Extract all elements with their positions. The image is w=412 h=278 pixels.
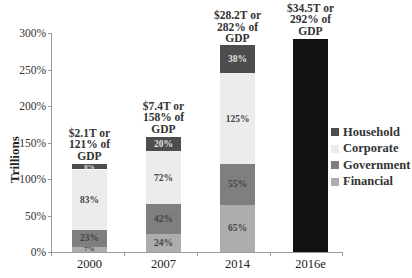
x-tick-mark — [51, 252, 52, 256]
total-label-line: GDP — [276, 26, 346, 38]
total-label-line: 158% of — [129, 112, 199, 124]
legend-swatch — [331, 178, 339, 186]
total-label-line: GDP — [203, 33, 273, 45]
bar-segment-corporate: 125% — [220, 73, 255, 164]
total-label-line: GDP — [55, 151, 125, 163]
y-tick-mark — [48, 179, 52, 180]
legend-label: Household — [343, 125, 400, 140]
x-tick-label: 2014 — [203, 257, 273, 272]
total-label-2007: $7.4T or158% ofGDP — [129, 101, 199, 136]
legend: HouseholdCorporateGovernmentFinancial — [331, 124, 410, 190]
y-tick-label: 200% — [0, 100, 46, 112]
y-tick-mark — [48, 216, 52, 217]
x-tick-mark — [270, 252, 271, 256]
x-tick-mark — [124, 252, 125, 256]
bar-2016e — [293, 39, 328, 252]
legend-item-corporate: Corporate — [331, 141, 410, 158]
total-label-line: GDP — [129, 124, 199, 136]
total-label-line: 121% of — [55, 139, 125, 151]
bar-segment-household: 8% — [72, 164, 107, 170]
x-tick-label: 2016e — [276, 257, 346, 272]
total-label-2000: $2.1T or121% ofGDP — [55, 128, 125, 163]
total-label-2016e: $34.5T or292% ofGDP — [276, 3, 346, 38]
y-tick-mark — [48, 70, 52, 71]
bar-segment-financial: 24% — [146, 234, 181, 252]
bar-segment-government: 42% — [146, 204, 181, 235]
total-label-2014: $28.2T or282% ofGDP — [203, 10, 273, 45]
x-tick-label: 2007 — [129, 257, 199, 272]
y-tick-label: 50% — [0, 210, 46, 222]
legend-swatch — [331, 161, 339, 169]
bar-segment-corporate: 83% — [72, 170, 107, 231]
bar-segment-financial: 65% — [220, 205, 255, 252]
y-tick-mark — [48, 33, 52, 34]
legend-swatch — [331, 128, 339, 136]
x-tick-mark — [342, 252, 343, 256]
y-tick-label: 0% — [0, 246, 46, 258]
total-label-line: $28.2T or — [203, 10, 273, 22]
bar-segment-government: 55% — [220, 164, 255, 204]
bar-segment-government: 23% — [72, 230, 107, 247]
y-tick-label: 250% — [0, 64, 46, 76]
x-tick-label: 2000 — [55, 257, 125, 272]
y-tick-label: 300% — [0, 27, 46, 39]
legend-label: Government — [343, 158, 410, 173]
bar-segment-corporate: 72% — [146, 151, 181, 204]
x-tick-mark — [197, 252, 198, 256]
stacked-bar-chart: Trillions 0%50%100%150%200%250%300% 7%23… — [0, 0, 412, 278]
legend-item-government: Government — [331, 157, 410, 174]
legend-item-household: Household — [331, 124, 410, 141]
y-tick-label: 100% — [0, 173, 46, 185]
bar-segment-household: 20% — [146, 137, 181, 152]
bar-segment-household: 38% — [220, 45, 255, 73]
bar-segment-financial: 7% — [72, 247, 107, 252]
legend-item-financial: Financial — [331, 174, 410, 191]
y-tick-label: 150% — [0, 137, 46, 149]
legend-swatch — [331, 145, 339, 153]
legend-label: Financial — [343, 174, 393, 189]
legend-label: Corporate — [343, 141, 399, 156]
y-tick-mark — [48, 106, 52, 107]
y-tick-mark — [48, 143, 52, 144]
